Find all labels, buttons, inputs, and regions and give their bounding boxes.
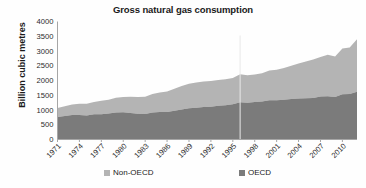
x-tick-label: 1983	[132, 142, 150, 160]
legend-swatch-non-oecd	[104, 170, 110, 176]
legend-item-oecd[interactable]: OECD	[239, 169, 271, 177]
y-tick-label: 3000	[37, 47, 54, 56]
y-tick-label: 1500	[37, 91, 54, 100]
chart-container: Gross natural gas consumption Billion cu…	[0, 0, 366, 188]
x-tick-label: 1995	[220, 142, 238, 160]
y-tick-label: 500	[41, 120, 54, 129]
x-tick-label: 1974	[67, 142, 85, 160]
y-tick-label: 1000	[37, 106, 54, 115]
x-tick-label: 1971	[45, 142, 63, 160]
x-tick-label: 2004	[286, 142, 304, 160]
x-tick-label: 2007	[308, 142, 326, 160]
legend-item-non-oecd[interactable]: Non-OECD	[104, 169, 153, 177]
x-tick-label: 1977	[88, 142, 106, 160]
x-tick-label: 2001	[264, 142, 282, 160]
y-tick-label: 4000	[37, 17, 54, 26]
y-tick-label: 3500	[37, 32, 54, 41]
x-tick-label: 1992	[198, 142, 216, 160]
y-tick-label: 0	[49, 135, 53, 144]
x-tick-label: 1998	[242, 142, 260, 160]
y-tick-label: 2000	[37, 76, 54, 85]
legend-swatch-oecd	[239, 170, 245, 176]
legend-label-oecd: OECD	[248, 169, 271, 177]
stacked-area-plot: 05001000150020002500300035004000 1971197…	[0, 0, 366, 188]
x-tick-label: 1980	[110, 142, 128, 160]
y-tick-label: 2500	[37, 61, 54, 70]
chart-legend: Non-OECD OECD	[0, 169, 366, 183]
x-tick-label: 2010	[329, 142, 347, 160]
legend-label-non-oecd: Non-OECD	[113, 169, 153, 177]
x-tick-label: 1989	[176, 142, 194, 160]
x-tick-label: 1986	[154, 142, 172, 160]
y-tick-labels: 05001000150020002500300035004000	[37, 17, 54, 144]
plot-areas	[58, 36, 358, 140]
x-tick-labels: 1971197419771980198319861989199219951998…	[45, 142, 348, 160]
